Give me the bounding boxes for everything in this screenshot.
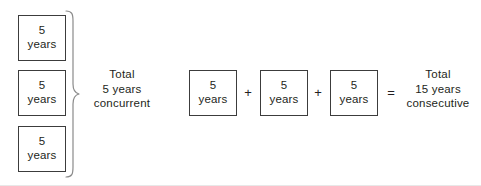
term-number: 5: [281, 79, 288, 93]
term-unit: years: [27, 38, 56, 52]
term-number: 5: [39, 79, 46, 93]
plus-operator-1: +: [241, 86, 255, 99]
concurrent-term-box-1: 5 years: [18, 15, 66, 61]
caption-line-3: concurrent: [92, 96, 152, 111]
term-number: 5: [39, 24, 46, 38]
consecutive-term-box-3: 5 years: [330, 70, 378, 116]
term-number: 5: [210, 79, 217, 93]
caption-line-1: Total: [400, 67, 476, 82]
consecutive-term-box-1: 5 years: [189, 70, 237, 116]
term-unit: years: [339, 93, 368, 107]
term-unit: years: [27, 149, 56, 163]
term-number: 5: [39, 135, 46, 149]
term-unit: years: [269, 93, 298, 107]
concurrent-total-caption: Total 5 years concurrent: [92, 67, 152, 111]
equals-operator: =: [384, 86, 398, 99]
consecutive-total-caption: Total 15 years consecutive: [400, 67, 476, 111]
consecutive-term-box-2: 5 years: [260, 70, 308, 116]
term-unit: years: [27, 93, 56, 107]
bottom-divider: [0, 185, 481, 186]
caption-line-1: Total: [92, 67, 152, 82]
term-number: 5: [351, 79, 358, 93]
caption-line-3: consecutive: [400, 96, 476, 111]
concurrent-term-box-2: 5 years: [18, 70, 66, 116]
caption-line-2: 15 years: [400, 82, 476, 97]
plus-operator-2: +: [311, 86, 325, 99]
term-unit: years: [198, 93, 227, 107]
sentencing-diagram: 5 years 5 years 5 years Total 5 years co…: [0, 0, 481, 186]
concurrent-term-box-3: 5 years: [18, 126, 66, 172]
caption-line-2: 5 years: [92, 82, 152, 97]
right-curly-brace-icon: [64, 10, 82, 178]
